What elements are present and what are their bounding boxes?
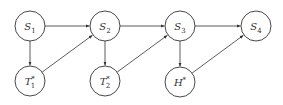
node-t2-star: T*2	[90, 66, 120, 96]
node-s2: S2	[90, 11, 120, 41]
node-h-star: H*	[165, 67, 195, 97]
edge-hstar-to-s4	[192, 35, 243, 73]
node-t1-star: T*1	[15, 66, 45, 96]
node-s3: S3	[165, 11, 195, 41]
node-s4: S4	[241, 11, 271, 41]
node-s1: S1	[15, 11, 45, 41]
graph-canvas: S1S2S3S4T*1T*2H*	[0, 0, 283, 105]
edge-t1star-to-s2	[42, 35, 92, 72]
edges-layer	[30, 26, 244, 73]
nodes-layer: S1S2S3S4T*1T*2H*	[15, 11, 271, 97]
edge-t2star-to-s3	[117, 35, 167, 72]
